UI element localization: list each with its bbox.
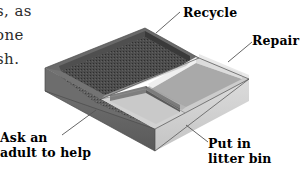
callout-repair-line-1: Repair bbox=[252, 33, 299, 48]
callout-litter-bin: Put in litter bin bbox=[208, 136, 272, 166]
callout-litter-line-1: Put in bbox=[208, 136, 272, 151]
callout-ask-line-2: adult to help bbox=[0, 145, 91, 160]
figure-page: s, as one sh. bbox=[0, 0, 305, 171]
leader-line-recycle bbox=[156, 12, 180, 33]
callout-recycle: Recycle bbox=[183, 5, 237, 20]
callout-recycle-line-1: Recycle bbox=[183, 5, 237, 20]
callout-ask-an-adult: Ask an adult to help bbox=[0, 130, 91, 160]
callout-ask-line-1: Ask an bbox=[0, 130, 91, 145]
leader-line-repair bbox=[228, 42, 252, 62]
callout-litter-line-2: litter bin bbox=[208, 151, 272, 166]
callout-repair: Repair bbox=[252, 33, 299, 48]
